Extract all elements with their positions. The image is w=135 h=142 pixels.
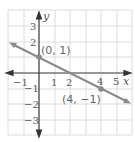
point-4-m1 <box>98 86 104 92</box>
x-tick-4: 4 <box>97 76 103 87</box>
y-tick-2: 2 <box>30 37 36 48</box>
x-axis-label: x <box>123 75 130 88</box>
y-axis-label: y <box>42 10 50 23</box>
x-tick-5: 5 <box>113 76 119 87</box>
y-tick-m2: −2 <box>24 99 39 110</box>
x-tick-2: 2 <box>66 77 72 88</box>
y-tick-3: 3 <box>30 21 36 32</box>
coordinate-plane: −1 1 2 4 5 x 3 2 −1 −2 −3 y (0, 1) (4, −… <box>0 0 135 142</box>
y-tick-m1: −1 <box>24 83 39 94</box>
x-tick-1: 1 <box>51 77 57 88</box>
point-label-4-m1: (4, −1) <box>62 93 101 106</box>
point-label-0-1: (0, 1) <box>41 44 71 57</box>
y-tick-m3: −3 <box>24 115 39 126</box>
